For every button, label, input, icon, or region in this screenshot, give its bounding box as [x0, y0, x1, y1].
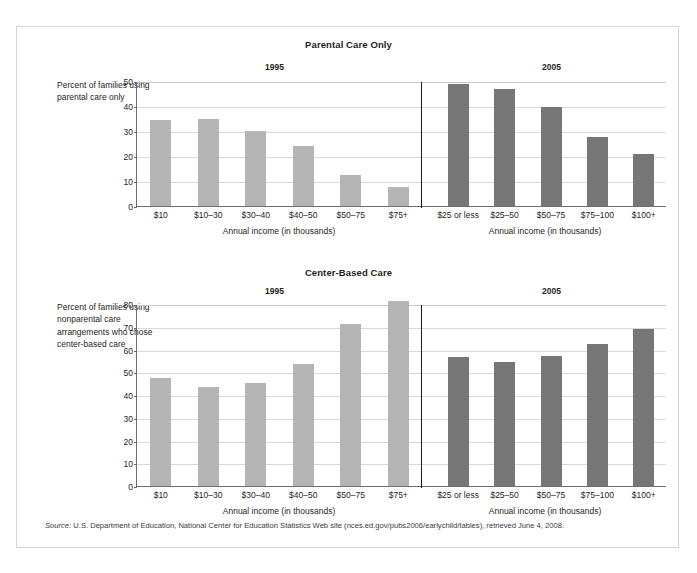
chart-2-plot-area: 01020304050607080$10$10–30$30–40$40–50$5…: [136, 305, 666, 487]
y-axis-tick-label: 50: [124, 369, 133, 378]
x-axis-tick-label: $10–30: [194, 211, 222, 220]
source-note: Source: U.S. Department of Education, Na…: [45, 521, 665, 531]
y-axis-tick-label: 40: [124, 392, 133, 401]
bar: [541, 356, 562, 486]
y-axis-tick-mark: [134, 442, 137, 443]
y-axis-tick-label: 0: [128, 203, 133, 212]
y-axis-tick-label: 0: [128, 483, 133, 492]
bar: [293, 146, 314, 206]
figure-frame: Parental Care Only Percent of families u…: [16, 26, 679, 548]
x-axis-tick-label: $30–40: [242, 491, 270, 500]
chart-1-panel-2005-label: 2005: [542, 62, 561, 72]
bar: [633, 154, 654, 207]
x-axis-tick-label: $75+: [389, 211, 408, 220]
x-axis-tick-label: $75–100: [581, 491, 614, 500]
bar: [245, 383, 266, 487]
x-axis-tick-label: $75–100: [581, 211, 614, 220]
chart-1-panel-divider: [421, 82, 422, 208]
y-axis-tick-mark: [134, 207, 137, 208]
y-axis-tick-mark: [134, 328, 137, 329]
chart-2-panel-1995-label: 1995: [265, 286, 284, 296]
y-axis-tick-label: 20: [124, 153, 133, 162]
y-axis-tick-mark: [134, 107, 137, 108]
y-axis-tick-mark: [134, 464, 137, 465]
y-axis-tick-label: 80: [124, 301, 133, 310]
x-axis-tick-label: $10: [154, 491, 168, 500]
bar: [388, 187, 409, 206]
bar: [494, 362, 515, 486]
bar: [198, 387, 219, 486]
y-axis-tick-mark: [134, 82, 137, 83]
chart-2-panel-2005-label: 2005: [542, 286, 561, 296]
y-axis-tick-mark: [134, 182, 137, 183]
x-axis-tick-label: $25 or less: [437, 211, 479, 220]
y-axis-tick-mark: [134, 396, 137, 397]
bar: [198, 119, 219, 207]
x-axis-tick-label: $100+: [632, 491, 656, 500]
y-axis-tick-label: 70: [124, 324, 133, 333]
y-axis-tick-mark: [134, 373, 137, 374]
source-note-prefix: Source:: [45, 521, 71, 530]
bar: [448, 84, 469, 207]
gridline: [137, 82, 666, 83]
gridline: [137, 107, 666, 108]
chart-2-panel-divider: [421, 305, 422, 488]
bar: [340, 175, 361, 206]
bar: [150, 120, 171, 206]
x-axis-tick-label: $40–50: [289, 491, 317, 500]
y-axis-tick-label: 60: [124, 346, 133, 355]
chart-1-panel-1995-label: 1995: [265, 62, 284, 72]
source-note-text: U.S. Department of Education, National C…: [71, 521, 564, 530]
y-axis-tick-label: 30: [124, 128, 133, 137]
y-axis-tick-mark: [134, 157, 137, 158]
bar: [541, 107, 562, 206]
bar: [448, 357, 469, 486]
y-axis-tick-mark: [134, 487, 137, 488]
y-axis-tick-label: 10: [124, 178, 133, 187]
chart-1-xaxis-title-1995: Annual income (in thousands): [223, 226, 335, 236]
y-axis-tick-mark: [134, 305, 137, 306]
chart-center-based-care: Center-Based Care Percent of families us…: [17, 255, 680, 505]
y-axis-tick-mark: [134, 132, 137, 133]
bar: [587, 344, 608, 486]
x-axis-tick-label: $10–30: [194, 491, 222, 500]
bar: [150, 378, 171, 486]
x-axis-tick-label: $50–75: [537, 491, 565, 500]
bar: [388, 301, 409, 486]
x-axis-tick-label: $25–50: [490, 211, 518, 220]
bar: [293, 364, 314, 486]
x-axis-tick-label: $75+: [389, 491, 408, 500]
y-axis-tick-label: 40: [124, 103, 133, 112]
x-axis-tick-label: $40–50: [289, 211, 317, 220]
x-axis-tick-label: $50–75: [337, 491, 365, 500]
y-axis-tick-label: 10: [124, 460, 133, 469]
bar: [494, 89, 515, 207]
y-axis-tick-mark: [134, 351, 137, 352]
x-axis-tick-label: $50–75: [537, 211, 565, 220]
x-axis-tick-label: $25 or less: [437, 491, 479, 500]
bar: [587, 137, 608, 206]
x-axis-tick-label: $30–40: [242, 211, 270, 220]
y-axis-tick-label: 20: [124, 437, 133, 446]
x-axis-tick-label: $50–75: [337, 211, 365, 220]
x-axis-tick-label: $10: [154, 211, 168, 220]
chart-2-title: Center-Based Care: [17, 267, 680, 278]
chart-2-xaxis-title-2005: Annual income (in thousands): [489, 506, 601, 516]
chart-1-xaxis-title-2005: Annual income (in thousands): [489, 226, 601, 236]
bar: [633, 329, 654, 486]
chart-2-xaxis-title-1995: Annual income (in thousands): [223, 506, 335, 516]
chart-1-title: Parental Care Only: [17, 39, 680, 50]
bar: [245, 131, 266, 206]
y-axis-tick-label: 50: [124, 78, 133, 87]
bar: [340, 324, 361, 486]
x-axis-tick-label: $25–50: [490, 491, 518, 500]
chart-parental-care-only: Parental Care Only Percent of families u…: [17, 27, 680, 257]
y-axis-tick-mark: [134, 419, 137, 420]
x-axis-tick-label: $100+: [632, 211, 656, 220]
chart-1-plot-area: 01020304050$10$10–30$30–40$40–50$50–75$7…: [136, 82, 666, 207]
y-axis-tick-label: 30: [124, 415, 133, 424]
